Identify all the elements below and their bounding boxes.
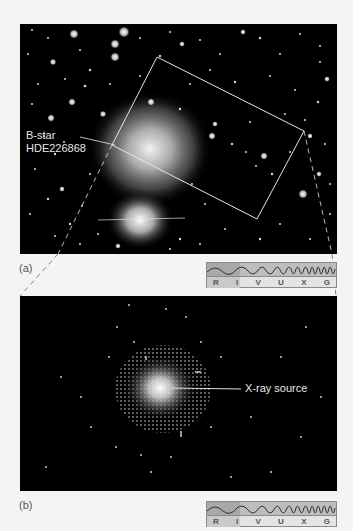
band-u: U bbox=[278, 278, 284, 287]
band-r: R bbox=[213, 278, 219, 287]
optical-image-panel: B-star HDE226868 bbox=[20, 24, 337, 254]
spectrum-band-labels: R I V U X G bbox=[207, 515, 336, 526]
spectrum-bar-a: R I V U X G bbox=[206, 262, 337, 288]
band-u: U bbox=[278, 517, 284, 526]
nebula-glow bbox=[88, 91, 212, 207]
band-v: V bbox=[256, 517, 261, 526]
panel-b-letter: (b) bbox=[19, 499, 32, 511]
spectrum-wave bbox=[207, 263, 336, 276]
band-i: I bbox=[236, 517, 238, 526]
spectrum-wave bbox=[207, 502, 336, 515]
band-r: R bbox=[213, 517, 219, 526]
bstar-label: B-star HDE226868 bbox=[26, 129, 86, 155]
spectrum-band-labels: R I V U X G bbox=[207, 276, 336, 287]
band-g: G bbox=[324, 517, 330, 526]
bstar-label-line1: B-star bbox=[26, 129, 86, 142]
xray-image-panel: X-ray source bbox=[20, 296, 337, 491]
spectrum-bar-b: R I V U X G bbox=[206, 501, 337, 527]
band-v: V bbox=[256, 278, 261, 287]
band-g: G bbox=[324, 278, 330, 287]
band-x: X bbox=[301, 517, 306, 526]
panel-a-letter: (a) bbox=[19, 262, 32, 274]
bstar-label-line2: HDE226868 bbox=[26, 142, 86, 155]
band-i: I bbox=[236, 278, 238, 287]
band-x: X bbox=[301, 278, 306, 287]
xray-source-label: X-ray source bbox=[245, 382, 307, 395]
